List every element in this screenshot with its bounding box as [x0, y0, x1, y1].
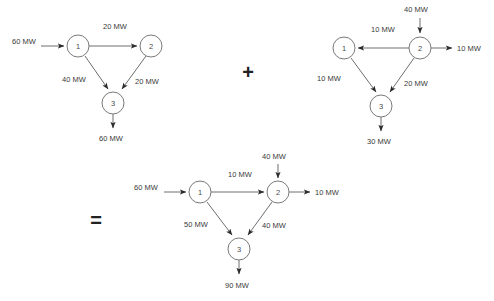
label-inject-node1-c: 60 MW [134, 183, 159, 192]
node-2-label-c: 2 [276, 188, 280, 197]
label-out-node3-b: 30 MW [367, 137, 392, 146]
label-edge-2-3-a: 20 MW [135, 77, 160, 86]
node-2-label-a: 2 [149, 42, 153, 51]
network-diagram-svg: 60 MW 20 MW 40 MW 20 MW 60 MW 1 2 3 + 40… [0, 0, 494, 301]
equals-operator: = [90, 209, 102, 231]
label-out-node2-b: 10 MW [457, 44, 482, 53]
label-inject-node2-c: 40 MW [262, 152, 287, 161]
label-edge-1-2-a: 20 MW [103, 22, 128, 31]
label-edge-2-3-c: 40 MW [262, 221, 287, 230]
node-1-label-b: 1 [342, 44, 346, 53]
label-inject-node2-b: 40 MW [404, 5, 429, 14]
diagram-canvas: 60 MW 20 MW 40 MW 20 MW 60 MW 1 2 3 + 40… [0, 0, 494, 301]
node-3-label-b: 3 [379, 102, 383, 111]
node-1-label-a: 1 [76, 42, 80, 51]
node-2-label-b: 2 [418, 44, 422, 53]
node-1-label-c: 1 [198, 188, 202, 197]
label-out-node3-c: 90 MW [225, 281, 250, 290]
label-inject-node1-a: 60 MW [12, 37, 37, 46]
edge-1-3-a [85, 56, 108, 89]
edge-1-3-b [351, 58, 376, 92]
plus-operator: + [242, 61, 254, 83]
label-edge-2-1-b: 10 MW [371, 25, 396, 34]
diagram-b-group: 40 MW 10 MW 10 MW 10 MW 20 MW 30 MW 1 2 … [317, 5, 482, 146]
edge-2-3-c [248, 202, 272, 235]
diagram-a-group: 60 MW 20 MW 40 MW 20 MW 60 MW 1 2 3 [12, 22, 162, 143]
node-3-label-a: 3 [111, 99, 115, 108]
label-edge-1-3-c: 50 MW [184, 220, 209, 229]
label-edge-1-2-c: 10 MW [228, 170, 253, 179]
label-edge-1-3-b: 10 MW [317, 74, 342, 83]
label-out-node2-c: 10 MW [315, 188, 340, 197]
label-out-node3-a: 60 MW [99, 134, 124, 143]
node-3-label-c: 3 [237, 245, 241, 254]
diagram-c-group: 60 MW 40 MW 10 MW 10 MW 50 MW 40 MW 90 M… [134, 152, 340, 290]
label-edge-2-3-b: 20 MW [404, 79, 429, 88]
label-edge-1-3-a: 40 MW [62, 75, 87, 84]
edge-1-3-c [207, 202, 232, 235]
